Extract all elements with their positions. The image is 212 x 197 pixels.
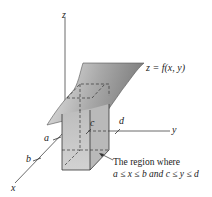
diagram-svg: [0, 0, 212, 197]
y-axis-label: y: [172, 125, 176, 135]
z-axis-label: z: [62, 10, 66, 20]
diagram-canvas: z y x a b c d z = f(x, y) The region whe…: [0, 0, 212, 197]
region-caption-line2: a ≤ x ≤ b and c ≤ y ≤ d: [113, 169, 199, 180]
tick-label-c: c: [90, 118, 94, 128]
tick-d: [115, 129, 120, 134]
region-box: [62, 104, 109, 170]
tick-label-d: d: [119, 116, 124, 126]
x-axis-label: x: [11, 183, 15, 193]
tick-label-b: b: [26, 154, 31, 164]
x-axis: [15, 131, 65, 183]
region-caption-line1: The region where: [113, 157, 180, 168]
surface-label: z = f(x, y): [146, 63, 185, 73]
tick-label-a: a: [44, 133, 49, 143]
